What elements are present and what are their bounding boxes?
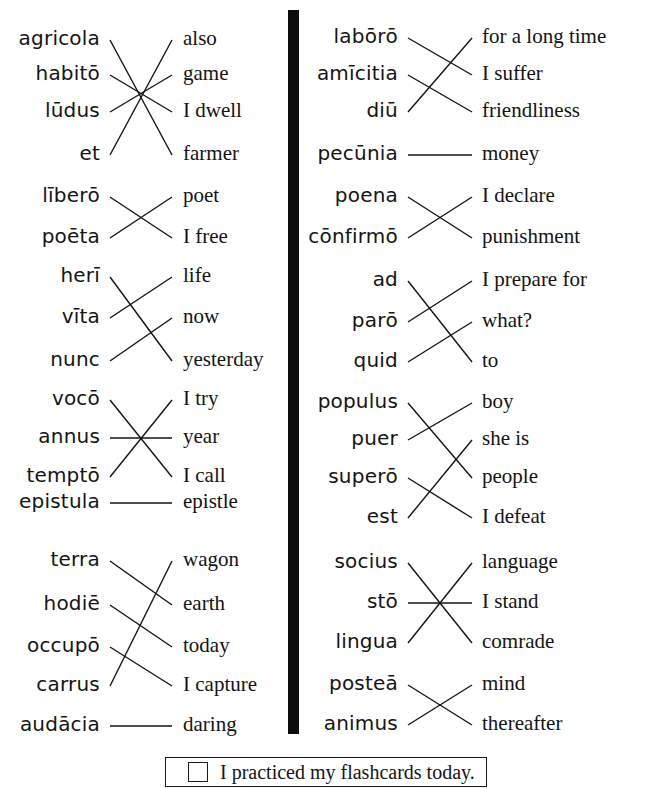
latin-word: ad: [0, 267, 398, 291]
match-line: [408, 281, 472, 322]
latin-word: est: [0, 504, 398, 528]
english-word: I suffer: [482, 61, 543, 86]
english-word: language: [482, 549, 558, 574]
match-line: [408, 197, 472, 238]
latin-word: pecūnia: [0, 141, 398, 165]
latin-word: parō: [0, 308, 398, 332]
worksheet-page: agricolahabitōlūdusetalsogameI dwellfarm…: [0, 0, 652, 789]
match-line: [408, 563, 472, 643]
english-word: money: [482, 141, 539, 166]
latin-word: diū: [0, 98, 398, 122]
match-line: [408, 478, 472, 518]
latin-word: amīcitia: [0, 61, 398, 85]
match-line: [408, 197, 472, 238]
match-line: [408, 685, 472, 725]
english-word: comrade: [482, 629, 554, 654]
latin-word: animus: [0, 711, 398, 735]
english-word: punishment: [482, 224, 580, 249]
flashcard-statement-label: I practiced my flashcards today.: [220, 761, 475, 784]
english-word: for a long time: [482, 24, 606, 49]
latin-word: socius: [0, 549, 398, 573]
match-line: [408, 440, 472, 518]
match-line: [408, 75, 472, 112]
match-line: [408, 403, 472, 440]
english-word: thereafter: [482, 711, 562, 736]
match-line: [408, 38, 472, 75]
english-word: I prepare for: [482, 267, 587, 292]
english-word: mind: [482, 671, 525, 696]
english-word: what?: [482, 308, 532, 333]
match-line: [408, 322, 472, 362]
flashcard-statement-box: I practiced my flashcards today.: [165, 757, 487, 787]
english-word: to: [482, 348, 498, 373]
english-word: boy: [482, 389, 514, 414]
match-line: [408, 281, 472, 362]
latin-word: populus: [0, 389, 398, 413]
latin-word: lingua: [0, 629, 398, 653]
english-word: I defeat: [482, 504, 546, 529]
latin-word: quid: [0, 348, 398, 372]
latin-word: cōnfirmō: [0, 224, 398, 248]
english-word: people: [482, 464, 538, 489]
english-word: I stand: [482, 589, 539, 614]
latin-word: posteā: [0, 671, 398, 695]
english-word: she is: [482, 426, 529, 451]
latin-word: labōrō: [0, 24, 398, 48]
latin-word: puer: [0, 426, 398, 450]
latin-word: superō: [0, 464, 398, 488]
match-line: [408, 403, 472, 478]
match-line: [408, 38, 472, 112]
english-word: friendliness: [482, 98, 580, 123]
latin-word: poena: [0, 183, 398, 207]
match-line: [408, 685, 472, 725]
match-line: [408, 563, 472, 643]
flashcard-checkbox[interactable]: [188, 762, 208, 782]
english-word: I declare: [482, 183, 555, 208]
match-line: [110, 561, 172, 686]
latin-word: stō: [0, 589, 398, 613]
